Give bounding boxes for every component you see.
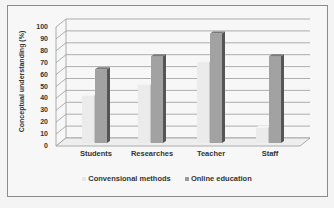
legend-swatch-conventional — [82, 177, 86, 181]
category-label-researches: Researches — [122, 149, 182, 158]
category-label-teacher: Teacher — [181, 149, 241, 158]
legend-label-conventional: Convensional methods — [88, 174, 171, 183]
category-label-staff: Staff — [240, 149, 300, 158]
legend-label-online: Online education — [191, 174, 252, 183]
legend-swatch-online — [185, 177, 189, 181]
category-label-students: Students — [66, 149, 126, 158]
legend-item-online: Online education — [185, 174, 252, 183]
legend-item-conventional: Convensional methods — [82, 174, 171, 183]
legend: Convensional methods Online education — [0, 174, 334, 183]
